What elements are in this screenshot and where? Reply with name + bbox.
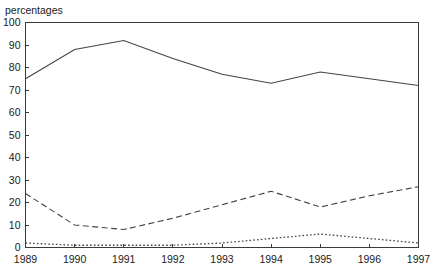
- y-tick-label: 50: [9, 129, 21, 141]
- y-tick-label: 60: [9, 106, 21, 118]
- y-tick-label: 40: [9, 151, 21, 163]
- x-tick-label: 1993: [210, 253, 234, 265]
- x-tick-label: 1989: [14, 253, 38, 265]
- y-tick-label: 100: [3, 16, 21, 28]
- x-tick-label: 1995: [309, 253, 333, 265]
- data-series-group: [26, 41, 419, 246]
- x-axis-tick-marks: [26, 244, 419, 248]
- x-tick-label: 1996: [358, 253, 382, 265]
- x-axis-tick-labels: 198919901991199219931994199519961997: [14, 253, 431, 265]
- y-axis-tick-labels: 0102030405060708090100: [3, 16, 21, 253]
- plot-area: 0102030405060708090100 19891990199119921…: [0, 0, 441, 268]
- line-chart: percentages 0102030405060708090100 19891…: [0, 0, 441, 268]
- x-tick-label: 1991: [112, 253, 136, 265]
- x-tick-label: 1992: [161, 253, 185, 265]
- y-tick-label: 0: [15, 241, 21, 253]
- plot-frame: [26, 23, 419, 248]
- y-tick-label: 70: [9, 84, 21, 96]
- data-line-solid: [26, 41, 419, 86]
- data-line-dashed: [26, 187, 419, 230]
- y-tick-label: 30: [9, 174, 21, 186]
- x-tick-label: 1994: [259, 253, 283, 265]
- x-tick-label: 1997: [407, 253, 431, 265]
- y-axis-tick-marks: [26, 23, 30, 248]
- y-tick-label: 80: [9, 61, 21, 73]
- x-tick-label: 1990: [63, 253, 87, 265]
- y-tick-label: 90: [9, 39, 21, 51]
- y-tick-label: 20: [9, 196, 21, 208]
- y-tick-label: 10: [9, 219, 21, 231]
- data-line-dotted: [26, 234, 419, 245]
